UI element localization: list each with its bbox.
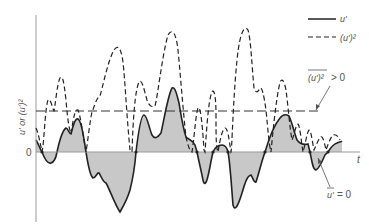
u-prime-series <box>36 88 342 212</box>
annotation-mean-square: (u')² > 0 <box>308 70 346 110</box>
svg-text:= 0: = 0 <box>337 189 352 200</box>
legend-label-u-prime-squared: (u')² <box>340 33 357 43</box>
u-prime-fill <box>36 88 342 212</box>
legend-label-u-prime: u' <box>340 14 347 24</box>
svg-text:(u')²: (u')² <box>308 73 325 83</box>
svg-text:> 0: > 0 <box>331 72 346 83</box>
annotation-mean-zero: u' = 0 <box>318 158 352 200</box>
chart-figure: 0 t u' or (u')² u' (u')² (u')² > 0 u' = … <box>0 0 369 224</box>
y-zero-label: 0 <box>26 147 32 158</box>
svg-text:u': u' <box>327 190 334 200</box>
x-axis-label: t <box>357 154 361 165</box>
y-axis-label: u' or (u')² <box>17 99 27 135</box>
legend: u' (u')² <box>308 14 357 43</box>
